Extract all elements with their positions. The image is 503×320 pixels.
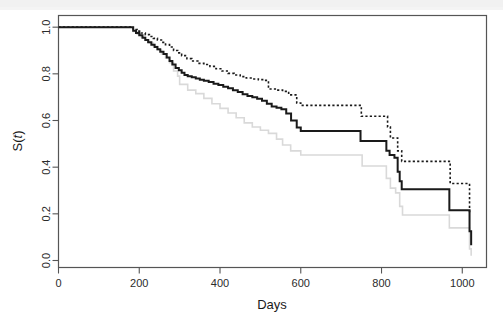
y-tick-label: 0.6 [40, 113, 52, 128]
x-tick-label: 200 [130, 277, 148, 289]
y-tick-label-group: 0.4 [40, 160, 52, 175]
y-axis-title-prefix: S( [10, 138, 25, 152]
x-tick-label: 1000 [450, 277, 474, 289]
x-tick-label: 0 [55, 277, 61, 289]
survival-chart: 02004006008001000 0.00.20.40.60.81.0 Day… [0, 0, 503, 320]
y-tick-label-group: 1.0 [40, 20, 52, 35]
x-axis-title: Days [257, 297, 287, 312]
y-axis-title-suffix: ) [10, 131, 25, 135]
y-tick-label: 0.0 [40, 253, 52, 268]
y-axis-ticks [53, 27, 59, 260]
x-axis-tick-labels: 02004006008001000 [55, 277, 474, 289]
y-axis-tick-labels: 0.00.20.40.60.81.0 [40, 20, 52, 269]
x-axis-ticks [59, 268, 463, 274]
y-axis-title-text: S(t) [10, 131, 25, 152]
y-tick-label-group: 0.0 [40, 253, 52, 268]
y-tick-label: 0.2 [40, 206, 52, 221]
x-tick-label: 800 [372, 277, 390, 289]
curve-estimate [59, 27, 472, 245]
y-tick-label: 0.4 [40, 160, 52, 175]
curve-lower-ci [59, 27, 472, 256]
y-tick-label-group: 0.6 [40, 113, 52, 128]
y-tick-label: 1.0 [40, 20, 52, 35]
x-tick-label: 400 [211, 277, 229, 289]
figure-root: 02004006008001000 0.00.20.40.60.81.0 Day… [0, 0, 503, 320]
plot-frame [59, 16, 487, 268]
x-tick-label: 600 [292, 277, 310, 289]
y-tick-label-group: 0.8 [40, 66, 52, 81]
y-tick-label: 0.8 [40, 66, 52, 81]
survival-curves [59, 27, 472, 256]
y-tick-label-group: 0.2 [40, 206, 52, 221]
curve-upper-ci [59, 27, 472, 213]
y-axis-title: S(t) [10, 131, 25, 152]
